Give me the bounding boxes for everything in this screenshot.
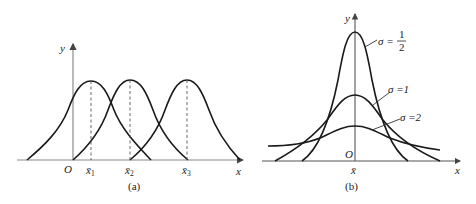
sigma-1-label: σ =1 [388, 83, 409, 95]
curve-mean-2 [73, 80, 188, 160]
mean-label-b: x̄ [350, 164, 356, 176]
caption-a: (a) [128, 180, 141, 193]
y-axis-label-b: y [344, 12, 350, 24]
panel-b: σ = 1 2 σ =1 σ =2 y O x̄ x (b) [262, 12, 460, 193]
mean-1-label: x̄1 [85, 164, 95, 178]
origin-label-a: O [64, 163, 72, 175]
curve-mean-3 [130, 80, 240, 160]
curve-sigma-1 [275, 95, 440, 161]
normal-distribution-figure: y O x x̄1 x̄2 x̄3 (a) σ = 1 2 σ =1 σ =2 … [0, 0, 476, 204]
x-axis-label-a: x [235, 165, 241, 177]
sigma-half-numerator: 1 [399, 28, 405, 40]
y-axis-label-a: y [59, 42, 65, 54]
panel-a: y O x x̄1 x̄2 x̄3 (a) [17, 42, 243, 193]
mean-2-label: x̄2 [124, 164, 134, 178]
mean-3-label: x̄3 [181, 164, 191, 178]
x-axis-label-b: x [454, 164, 460, 176]
sigma-half-denominator: 2 [399, 41, 405, 53]
leader-sigma-half [365, 40, 377, 47]
sigma-2-label: σ =2 [400, 111, 422, 123]
curve-sigma-2 [268, 126, 440, 150]
sigma-half-label: σ = [378, 35, 394, 47]
caption-b: (b) [345, 180, 358, 193]
curve-mean-1 [27, 81, 151, 160]
origin-label-b: O [345, 148, 353, 160]
